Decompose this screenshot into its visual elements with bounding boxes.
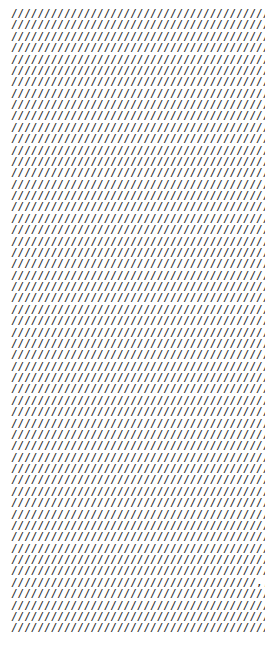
document-line: ////////////////////////////////////////… — [11, 258, 265, 269]
document-line: ////////////////////////////////////////… — [11, 42, 265, 53]
document-line: ////////////////////////////////////////… — [11, 315, 265, 326]
document-page: ////////////////////////////////////////… — [0, 0, 265, 656]
document-line: ////////////////////////////////////////… — [11, 406, 265, 417]
document-line: ////////////////////////////////////////… — [11, 440, 265, 451]
document-line: ////////////////////////////////////////… — [11, 133, 265, 144]
document-text-body[interactable]: ////////////////////////////////////////… — [11, 8, 265, 634]
document-line: ////////////////////////////////////////… — [11, 76, 265, 87]
document-line: ////////////////////////////////////////… — [11, 224, 265, 235]
document-line: ////////////////////////////////////////… — [11, 588, 265, 599]
document-line: ////////////////////////////////////////… — [11, 622, 265, 633]
document-line: ////////////////////////////////////////… — [11, 167, 265, 178]
document-line: ////////////////////////////////////////… — [11, 349, 265, 360]
document-line: ////////////////////////////////////////… — [11, 531, 265, 542]
document-line: ////////////////////////////////////////… — [11, 497, 265, 508]
